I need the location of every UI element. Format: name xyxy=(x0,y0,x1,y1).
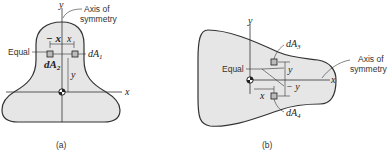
area-element-dA3 xyxy=(271,59,277,65)
y-axis-label-b: y xyxy=(247,15,253,26)
area-element-dA4 xyxy=(271,93,277,99)
x-dimension-label-b: x xyxy=(259,90,265,101)
caption-b: (b) xyxy=(262,140,273,150)
y-axis-label-a: y xyxy=(58,0,64,10)
axis-of-symmetry-label-a-line1: Axis of xyxy=(84,4,110,14)
shape-a xyxy=(2,22,120,122)
axis-of-symmetry-label-a-line2: symmetry xyxy=(80,14,118,24)
area-element-dA1 xyxy=(72,51,78,57)
x-axis-label-b: x xyxy=(330,74,336,85)
axis-of-symmetry-label-b-line2: symmetry xyxy=(350,64,388,74)
equal-label-a: Equal xyxy=(8,47,30,57)
axis-of-symmetry-label-b-line1: Axis of xyxy=(358,54,384,64)
pos-x-label: x xyxy=(66,33,72,44)
neg-y-label: − y xyxy=(286,81,300,92)
centroid-icon-b xyxy=(247,77,253,83)
caption-a: (a) xyxy=(56,140,67,150)
area-element-dA2 xyxy=(47,51,53,57)
pos-y-label: y xyxy=(287,64,293,75)
centroid-icon-a xyxy=(59,89,65,95)
figure-b: y x Axis of symmetry dA3 dA4 y − y Equal xyxy=(198,15,388,150)
equal-label-b: Equal xyxy=(222,64,244,74)
dA3-label: dA3 xyxy=(286,38,301,51)
neg-x-label: − x xyxy=(46,32,61,44)
dA4-label: dA4 xyxy=(286,107,301,120)
x-axis-label-a: x xyxy=(124,86,130,97)
y-dimension-label-a: y xyxy=(70,69,76,80)
symmetry-diagram: y x Axis of symmetry − x x Equal dA2 dA1 xyxy=(0,0,392,154)
dA1-label: dA1 xyxy=(88,48,103,61)
figure-a: y x Axis of symmetry − x x Equal dA2 dA1 xyxy=(2,0,130,150)
shape-b xyxy=(198,30,336,126)
